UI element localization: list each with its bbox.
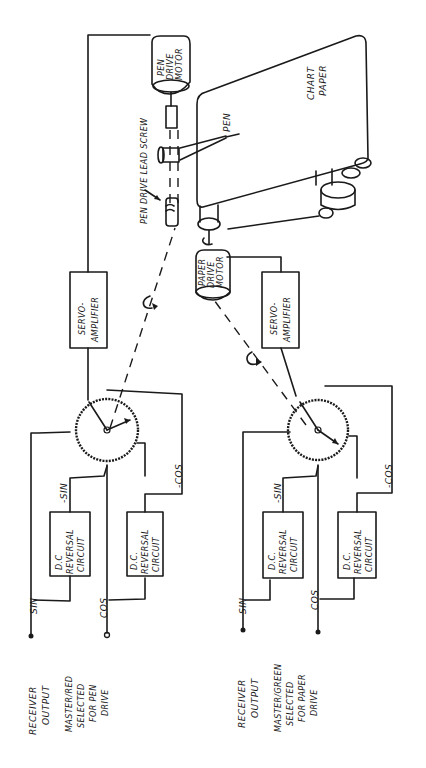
svg-text:REVERSAL: REVERSAL [354, 529, 363, 574]
svg-text:CIRCUIT: CIRCUIT [290, 536, 299, 572]
lead-screw-bearing [166, 198, 178, 226]
svg-text:CIRCUIT: CIRCUIT [77, 536, 86, 572]
svg-text:FOR PAPER: FOR PAPER [298, 674, 307, 722]
svg-text:FOR PEN: FOR PEN [89, 684, 98, 722]
lead-screw-label: PEN DRIVE LEAD SCREW [140, 117, 149, 224]
svg-text:MASTER/GREEN: MASTER/GREEN [274, 664, 283, 732]
svg-text:D.C.: D.C. [130, 552, 139, 570]
svg-text:PEN: PEN [157, 59, 166, 76]
svg-text:REVERSAL: REVERSAL [66, 529, 75, 574]
svg-text:SELECTED: SELECTED [77, 683, 86, 728]
paper-servo-amplifier [262, 272, 299, 348]
svg-text:PAPER: PAPER [198, 259, 207, 286]
paper-drive-motor: PAPER DRIVE MOTOR [196, 250, 230, 300]
svg-text:REVERSAL: REVERSAL [141, 529, 150, 574]
pen-carriage [163, 148, 179, 162]
pen-channel: SIN COS -SIN -COS D.C REVERSAL CIRCUIT D… [28, 35, 184, 735]
paper-roller [198, 218, 220, 230]
svg-text:SIN: SIN [238, 597, 248, 614]
svg-text:SERVO-: SERVO- [270, 302, 279, 335]
svg-text:D.C: D.C [55, 554, 64, 570]
svg-text:DRIVE: DRIVE [166, 53, 175, 80]
pen-cos-label: COS [99, 597, 109, 618]
svg-text:OUTPUT: OUTPUT [250, 677, 260, 718]
svg-text:MOTOR: MOTOR [175, 48, 184, 80]
svg-text:-SIN: -SIN [273, 483, 283, 503]
svg-text:AMPLIFIER: AMPLIFIER [91, 297, 100, 343]
shaft-coupling [166, 106, 177, 128]
pen-sin-label: SIN [29, 597, 39, 614]
svg-text:DRIVE: DRIVE [310, 689, 319, 716]
pen-label: PEN [222, 113, 232, 132]
svg-text:CIRCUIT: CIRCUIT [365, 536, 374, 572]
svg-text:CHART: CHART [306, 66, 316, 100]
svg-text:RECEIVER: RECEIVER [237, 679, 247, 728]
svg-text:REVERSAL: REVERSAL [279, 529, 288, 574]
svg-text:SERVO-: SERVO- [78, 302, 87, 335]
svg-text:AMPLIFIER: AMPLIFIER [283, 297, 292, 343]
svg-text:COS: COS [310, 589, 320, 610]
svg-text:OUTPUT: OUTPUT [41, 684, 51, 725]
paper-channel: SIN COS -SIN -COS D.C. REVERSAL CIRCUIT … [214, 257, 394, 732]
svg-text:D.C.: D.C. [268, 552, 277, 570]
svg-text:DRIVE: DRIVE [101, 689, 110, 716]
svg-text:CIRCUIT: CIRCUIT [152, 536, 161, 572]
pen-drive-motor: PEN DRIVE MOTOR [152, 36, 190, 94]
svg-text:DRIVE: DRIVE [207, 261, 216, 288]
recorder-schematic: SIN COS -SIN -COS D.C REVERSAL CIRCUIT D… [0, 0, 426, 768]
pen-servo-amplifier [70, 272, 107, 348]
recorder-mechanism: PEN DRIVE MOTOR PEN PEN DRIVE LEAD SCREW [140, 36, 371, 300]
svg-text:MOTOR: MOTOR [216, 256, 225, 288]
pen-neg-cos-label: -COS [174, 464, 184, 488]
svg-text:RECEIVER: RECEIVER [28, 686, 38, 735]
svg-text:-COS: -COS [384, 464, 394, 488]
pen-neg-sin-label: -SIN [59, 483, 69, 503]
svg-text:SELECTED: SELECTED [286, 681, 295, 726]
svg-text:D.C.: D.C. [343, 552, 352, 570]
svg-text:MASTER/RED: MASTER/RED [65, 676, 74, 732]
svg-text:PAPER: PAPER [318, 65, 328, 96]
